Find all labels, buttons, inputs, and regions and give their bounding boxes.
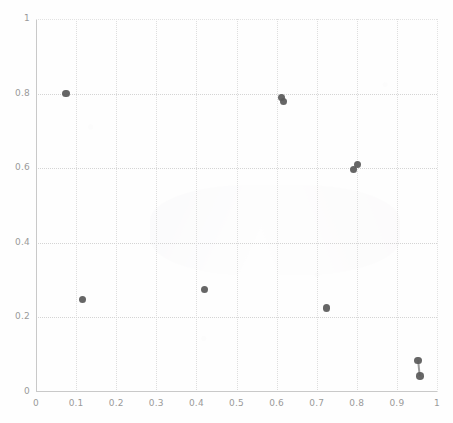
y-axis-tick-label: 0 xyxy=(4,386,30,396)
x-axis-tick-label: 0.1 xyxy=(61,398,91,408)
x-axis-tick-label: 0.6 xyxy=(262,398,292,408)
y-axis-tick-label: 1 xyxy=(4,13,30,23)
scatter-plot-figure: 00.10.20.30.40.50.60.70.80.9100.20.40.60… xyxy=(0,0,453,423)
x-axis-tick-label: 0.5 xyxy=(222,398,252,408)
x-axis-tick-label: 0.9 xyxy=(382,398,412,408)
plot-top-edge xyxy=(36,19,437,20)
cropped-header-remnant xyxy=(255,1,435,10)
x-axis-tick-label: 0 xyxy=(21,398,51,408)
x-axis-tick-label: 0.2 xyxy=(101,398,131,408)
x-axis-tick-label: 0.3 xyxy=(141,398,171,408)
x-axis-tick-label: 0.7 xyxy=(302,398,332,408)
x-axis-tick-label: 0.4 xyxy=(181,398,211,408)
y-axis-tick-label: 0.4 xyxy=(4,237,30,247)
y-axis-tick-label: 0.2 xyxy=(4,311,30,321)
y-axis-tick-label: 0.6 xyxy=(4,162,30,172)
x-axis-tick-label: 0.8 xyxy=(342,398,372,408)
plot-area-frame xyxy=(36,19,437,392)
x-axis-tick-label: 1 xyxy=(422,398,452,408)
y-axis-tick-label: 0.8 xyxy=(4,88,30,98)
plot-right-edge xyxy=(437,19,438,392)
